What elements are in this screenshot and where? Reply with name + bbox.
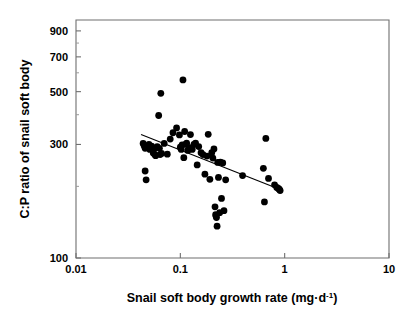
data-point-48 — [211, 146, 218, 153]
data-point-20 — [167, 136, 174, 143]
x-tick-label-0: 0.01 — [65, 263, 86, 275]
data-point-29 — [181, 128, 188, 135]
data-point-42 — [202, 171, 209, 178]
data-points — [140, 77, 284, 230]
x-tick-label-1: 0.1 — [173, 263, 188, 275]
y-axis-ticks — [76, 31, 81, 258]
x-axis-ticks — [76, 253, 389, 258]
data-point-34 — [187, 131, 194, 138]
data-point-66 — [265, 175, 272, 182]
data-point-65 — [262, 135, 269, 142]
data-point-28 — [180, 154, 187, 161]
y-axis-tick-labels: 100300500700900 — [50, 25, 68, 264]
data-point-53 — [214, 223, 221, 230]
y-tick-label-0: 100 — [50, 252, 68, 264]
y-axis-title-text: C:P ratio of snail soft body — [18, 60, 32, 219]
data-point-38 — [194, 162, 201, 169]
x-tick-label-2: 1 — [282, 263, 288, 275]
data-point-13 — [155, 112, 162, 119]
data-point-4 — [143, 176, 150, 183]
data-point-45 — [206, 176, 213, 183]
x-axis-title-close: ) — [333, 291, 337, 305]
x-axis-title: Snail soft body growth rate (mg·d-1) — [127, 291, 338, 305]
scatter-plot-figure: 0.010.1110 100300500700900 Snail soft bo… — [0, 0, 415, 320]
chart-canvas: 0.010.1110 100300500700900 Snail soft bo… — [0, 0, 415, 320]
data-point-49 — [212, 203, 219, 210]
data-point-59 — [219, 159, 226, 166]
y-axis-title: C:P ratio of snail soft body — [18, 60, 32, 219]
x-axis-title-main: Snail soft body growth rate (mg — [127, 291, 315, 305]
y-tick-label-1: 300 — [50, 138, 68, 150]
x-axis-title-unit: d — [318, 291, 326, 305]
plot-frame — [76, 20, 389, 258]
data-point-60 — [221, 207, 228, 214]
data-point-16 — [157, 90, 164, 97]
y-tick-label-3: 700 — [50, 51, 68, 63]
data-point-22 — [173, 125, 180, 132]
data-point-27 — [180, 77, 187, 84]
data-point-17 — [158, 150, 165, 157]
axes-frame — [76, 20, 389, 258]
x-tick-label-3: 10 — [383, 263, 395, 275]
data-point-44 — [205, 131, 212, 138]
data-point-63 — [260, 165, 267, 172]
x-axis-tick-labels: 0.010.1110 — [65, 263, 395, 275]
y-tick-label-4: 900 — [50, 25, 68, 37]
data-point-39 — [195, 143, 202, 150]
data-point-3 — [142, 168, 149, 175]
data-point-64 — [261, 199, 268, 206]
svg-text:Snail soft body growth rate (m: Snail soft body growth rate (mg·d-1) — [127, 291, 338, 305]
data-point-19 — [164, 151, 171, 158]
data-point-55 — [215, 174, 222, 181]
data-point-58 — [218, 195, 225, 202]
y-tick-label-2: 500 — [50, 86, 68, 98]
data-point-61 — [222, 176, 229, 183]
